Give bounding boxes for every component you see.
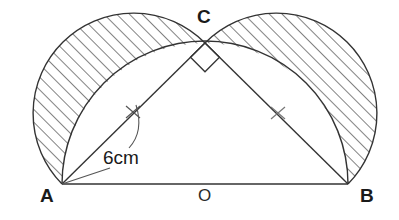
geometry-figure: A B C O 6cm: [0, 0, 399, 220]
vertex-label-b: B: [360, 186, 374, 205]
vertex-label-a: A: [40, 186, 54, 205]
lune-right-region: [205, 13, 377, 184]
right-angle-marker-icon: [191, 43, 220, 72]
center-label-o: O: [198, 187, 211, 204]
vertex-label-c: C: [197, 7, 211, 26]
tick-mark-cb-icon: [271, 107, 285, 119]
dimension-label-6cm: 6cm: [103, 148, 139, 167]
